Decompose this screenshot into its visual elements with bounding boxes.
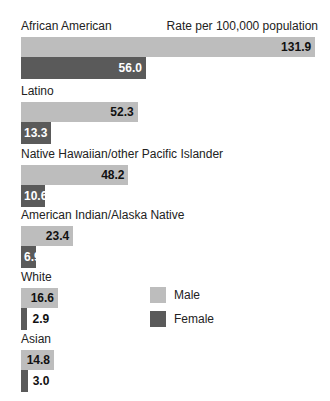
value-label-male: 48.2 — [101, 165, 124, 185]
legend-label-male: Male — [174, 288, 200, 302]
bar-female — [21, 308, 27, 330]
value-label-female: 2.9 — [32, 309, 49, 329]
category-label: Native Hawaiian/other Pacific Islander — [21, 147, 223, 161]
value-label-female: 6.9 — [24, 247, 41, 267]
value-label-female: 10.6 — [24, 186, 47, 206]
value-label-female: 13.3 — [24, 123, 47, 143]
value-label-male: 52.3 — [110, 102, 133, 122]
bar-female — [21, 370, 28, 392]
category-label: Asian — [21, 332, 51, 346]
category-label: Latino — [21, 84, 54, 98]
legend-swatch-male — [150, 287, 166, 303]
value-label-male: 23.4 — [46, 226, 69, 246]
value-label-female: 3.0 — [33, 371, 50, 391]
category-label: African American — [21, 19, 112, 33]
unit-label: Rate per 100,000 population — [167, 19, 318, 33]
legend-label-female: Female — [174, 312, 214, 326]
bar-male — [21, 37, 315, 57]
legend-swatch-female — [150, 311, 166, 327]
value-label-male: 14.8 — [27, 350, 50, 370]
value-label-female: 56.0 — [119, 58, 142, 78]
category-label: White — [21, 270, 52, 284]
horizontal-bar-chart: Rate per 100,000 population African Amer… — [0, 0, 330, 401]
value-label-male: 16.6 — [31, 288, 54, 308]
value-label-male: 131.9 — [281, 37, 311, 57]
category-label: American Indian/Alaska Native — [21, 208, 184, 222]
